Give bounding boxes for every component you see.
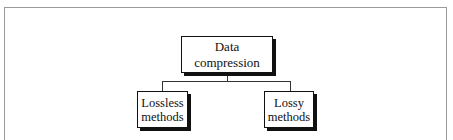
child-node-lossless: Lossless methods <box>137 91 188 128</box>
child-node-lossy: Lossy methods <box>264 91 314 128</box>
connector-drop-right <box>290 81 291 91</box>
child-node-label-line1: Lossless <box>141 96 183 110</box>
figure-frame <box>4 7 447 140</box>
connector-drop-left <box>162 81 163 91</box>
figure-caption-clipped <box>6 0 206 2</box>
root-node-data-compression: Data compression <box>181 36 273 73</box>
root-node-label: Data compression <box>182 39 272 71</box>
child-node-label-line2: methods <box>141 110 183 124</box>
child-node-label-line2: methods <box>268 110 310 124</box>
connector-horizontal <box>162 81 291 82</box>
child-node-label-line1: Lossy <box>268 96 310 110</box>
